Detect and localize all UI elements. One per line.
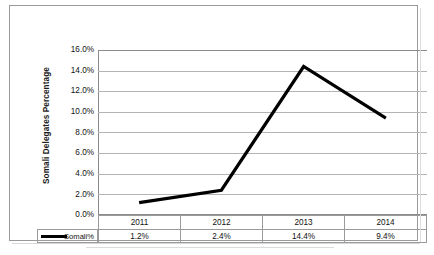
data-table-value-cell: 2.4%: [181, 229, 263, 243]
data-table-header-cell: 2013: [263, 215, 345, 229]
y-axis-tick-label: 8.0%: [56, 128, 94, 138]
data-table-header-cell: 2011: [98, 215, 181, 229]
data-table-value-cell: 9.4%: [345, 229, 427, 243]
y-axis-title: Somali Delegates Percentage: [42, 46, 51, 206]
y-axis-tick-labels: 16.0% 14.0% 12.0% 10.0% 8.0% 6.0% 4.0% 2…: [56, 44, 94, 220]
y-axis-tick-label: 6.0%: [56, 148, 94, 158]
data-table-value-cell: 14.4%: [263, 229, 345, 243]
plot-area: [98, 50, 427, 215]
frame-shadow-right: [420, 8, 421, 242]
y-axis-tick-label: 4.0%: [56, 169, 94, 179]
frame-shadow-bottom: [12, 243, 420, 244]
y-axis-tick-label: 14.0%: [56, 66, 94, 76]
data-table: 2011 2012 2013 2014 Somali% 1.2% 2.4% 14…: [37, 215, 427, 244]
y-axis-tick-label: 2.0%: [56, 190, 94, 200]
y-axis-tick-label: 12.0%: [56, 86, 94, 96]
frame-shadow-bottom-secondary: [86, 247, 334, 248]
data-table-header-cell: 2014: [345, 215, 427, 229]
y-axis-tick-label: 16.0%: [56, 45, 94, 55]
series-line-somali-percent: [98, 50, 427, 215]
chart-frame: Somali Delegates Percentage 16.0% 14.0% …: [9, 5, 418, 241]
data-table-value-row: Somali% 1.2% 2.4% 14.4% 9.4%: [37, 229, 427, 243]
data-table-value-cell: 1.2%: [98, 229, 181, 243]
data-table-header-cell: 2012: [181, 215, 263, 229]
chart-figure: Somali Delegates Percentage 16.0% 14.0% …: [0, 0, 434, 255]
legend-label: Somali%: [64, 232, 96, 241]
legend-line-swatch-icon: [41, 235, 67, 238]
data-table-header-spacer: [37, 215, 98, 229]
legend-entry-somali-percent: Somali%: [37, 229, 98, 243]
y-axis-tick-label: 10.0%: [56, 107, 94, 117]
data-table-header-row: 2011 2012 2013 2014: [37, 215, 427, 229]
